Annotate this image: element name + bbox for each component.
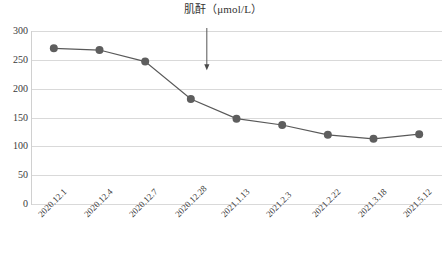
annotation-arrow-layer xyxy=(0,0,446,270)
arrow-head xyxy=(204,64,209,70)
creatinine-line-chart: 肌酐（μmol/L） 050100150200250300 2020.12.12… xyxy=(0,0,446,270)
treatment-start-arrow-icon xyxy=(204,28,209,70)
